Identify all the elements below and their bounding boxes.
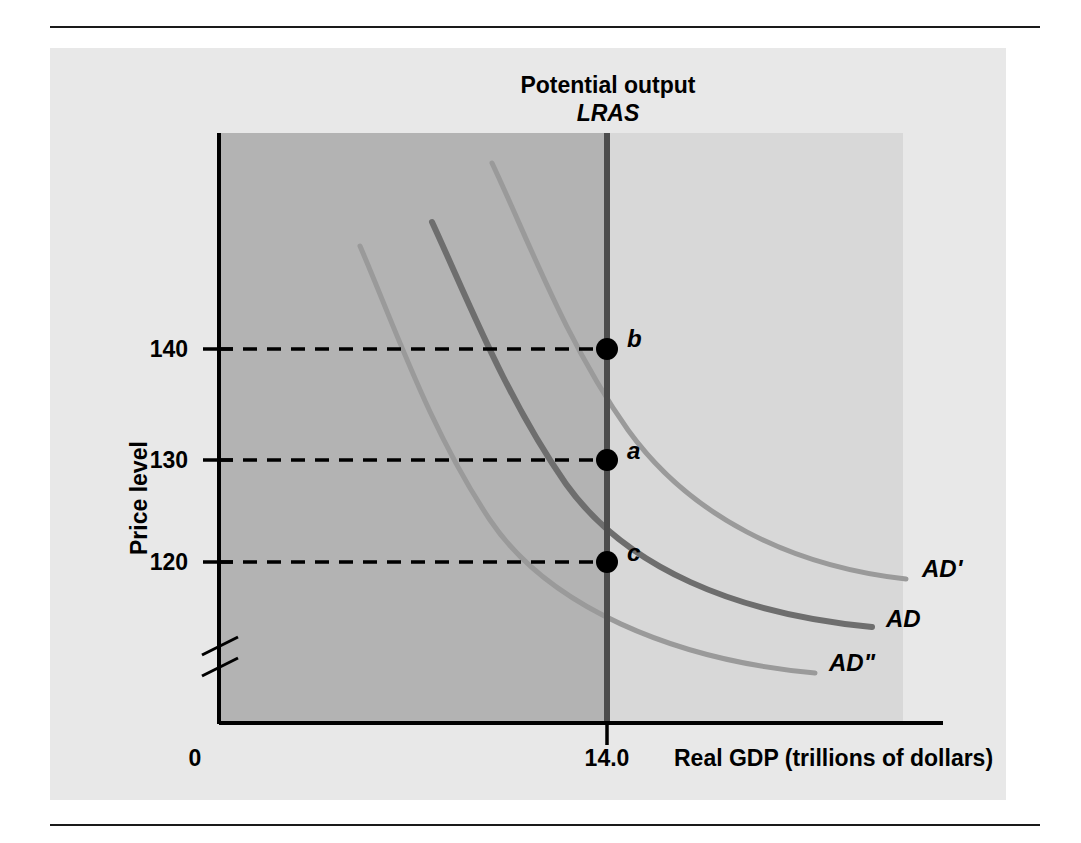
point-marker-a <box>596 449 618 471</box>
point-marker-c <box>596 551 618 573</box>
x-axis-title: Real GDP (trillions of dollars) <box>674 745 993 772</box>
figure-root: Potential output LRAS Price level 140 13… <box>0 0 1081 843</box>
y-tick-label-140: 140 <box>84 336 188 363</box>
curve-label-ad-prime: AD' <box>922 555 962 583</box>
curve-label-ad: AD <box>886 605 921 633</box>
point-marker-b <box>596 338 618 360</box>
region-left-of-lras <box>219 133 607 723</box>
x-origin-label: 0 <box>175 745 215 772</box>
y-tick-label-130: 130 <box>84 447 188 474</box>
point-label-c: c <box>627 539 640 567</box>
x-tick-label-14: 14.0 <box>557 745 657 772</box>
point-label-a: a <box>627 437 640 465</box>
curve-label-ad-double-prime: AD" <box>829 649 875 677</box>
lras-label: LRAS <box>458 100 758 127</box>
point-label-b: b <box>627 325 642 353</box>
potential-output-label: Potential output <box>458 72 758 99</box>
y-tick-label-120: 120 <box>84 549 188 576</box>
